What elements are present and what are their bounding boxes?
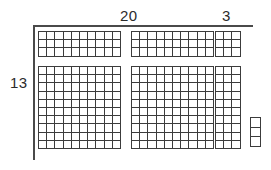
grid-cell: [140, 141, 148, 149]
grid-cell: [64, 124, 72, 132]
grid-cell: [39, 133, 47, 141]
grid-cell: [232, 75, 240, 83]
grid-cell: [39, 100, 47, 108]
grid-cell: [232, 67, 240, 75]
grid-cell: [72, 75, 80, 83]
grid-cell: [88, 32, 96, 40]
grid-cell: [64, 100, 72, 108]
grid-cell: [224, 67, 232, 75]
grid-cell: [181, 116, 189, 124]
grid-cell: [206, 124, 214, 132]
grid-cell: [55, 67, 63, 75]
grid-cell: [224, 92, 232, 100]
grid-cell: [113, 40, 121, 48]
grid-cell: [181, 133, 189, 141]
grid-cell: [232, 133, 240, 141]
grid-cell: [189, 124, 197, 132]
grid-cell: [96, 116, 104, 124]
grid-cell: [206, 116, 214, 124]
grid-cell: [64, 92, 72, 100]
grid-cell: [88, 108, 96, 116]
left-height-label-13: 13: [10, 75, 28, 90]
grid-cell: [88, 141, 96, 149]
grid-cell: [232, 92, 240, 100]
grid-cell: [148, 40, 156, 48]
grid-cell: [157, 100, 165, 108]
grid-cell: [140, 133, 148, 141]
grid-cell: [96, 67, 104, 75]
grid-cell: [55, 83, 63, 91]
grid-cell: [80, 32, 88, 40]
grid-cell: [55, 40, 63, 48]
grid-cell: [206, 100, 214, 108]
grid-cell: [148, 75, 156, 83]
grid-cell: [216, 108, 224, 116]
grid-cell: [216, 48, 224, 56]
grid-cell: [132, 83, 140, 91]
grid-cell: [181, 124, 189, 132]
grid-cell: [132, 92, 140, 100]
grid-cell: [132, 124, 140, 132]
grid-cell: [132, 75, 140, 83]
grid-cell: [148, 108, 156, 116]
grid-cell: [224, 83, 232, 91]
grid-cell: [39, 67, 47, 75]
grid-cell: [96, 92, 104, 100]
grid-cell: [140, 67, 148, 75]
grid-cell: [198, 32, 206, 40]
grid-cell: [189, 67, 197, 75]
grid-cell: [173, 40, 181, 48]
grid-cell: [80, 141, 88, 149]
grid-cell: [189, 83, 197, 91]
grid-cell: [232, 100, 240, 108]
grid-cell: [224, 141, 232, 149]
grid-cell: [198, 108, 206, 116]
grid-cell: [157, 48, 165, 56]
grid-cell: [165, 32, 173, 40]
top-width-label-20: 20: [120, 8, 138, 23]
grid-cell: [173, 133, 181, 141]
grid-cell: [88, 75, 96, 83]
grid-cell: [96, 108, 104, 116]
grid-cell: [88, 116, 96, 124]
grid-cell: [105, 40, 113, 48]
grid-cell: [39, 40, 47, 48]
grid-cell: [216, 133, 224, 141]
grid-cell: [157, 133, 165, 141]
grid-cell: [47, 116, 55, 124]
grid-cell: [96, 48, 104, 56]
grid-cell: [232, 116, 240, 124]
grid-cell: [88, 40, 96, 48]
grid-cell: [206, 108, 214, 116]
grid-cell: [80, 40, 88, 48]
grid-cell: [181, 48, 189, 56]
grid-cell: [47, 67, 55, 75]
grid-cell: [232, 141, 240, 149]
top-left-block: [38, 31, 121, 57]
grid-cell: [88, 100, 96, 108]
grid-cell: [140, 100, 148, 108]
grid-cell: [181, 100, 189, 108]
grid-cell: [173, 48, 181, 56]
unit-strip-block: [250, 117, 261, 147]
grid-cell: [181, 141, 189, 149]
grid-cell: [157, 141, 165, 149]
grid-cell: [47, 83, 55, 91]
grid-cell: [216, 83, 224, 91]
grid-cell: [88, 83, 96, 91]
grid-cell: [157, 40, 165, 48]
grid-cell: [105, 108, 113, 116]
grid-cell: [80, 100, 88, 108]
grid-cell: [165, 48, 173, 56]
grid-cell: [39, 48, 47, 56]
grid-cell: [189, 108, 197, 116]
grid-cell: [216, 40, 224, 48]
grid-cell: [216, 124, 224, 132]
grid-cell: [47, 32, 55, 40]
grid-cell: [148, 67, 156, 75]
bottom-left-block: [38, 66, 121, 149]
grid-cell: [88, 92, 96, 100]
grid-cell: [72, 67, 80, 75]
grid-cell: [105, 141, 113, 149]
grid-cell: [113, 133, 121, 141]
